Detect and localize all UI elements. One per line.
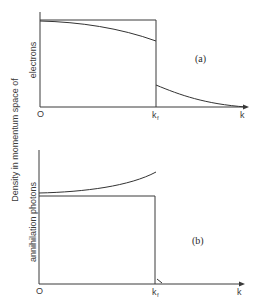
panel-a-step-function xyxy=(40,20,156,107)
figure: Density in momentum space of electrons O… xyxy=(0,0,258,306)
panel-a-density-curve xyxy=(40,21,156,41)
svg-text:f: f xyxy=(157,292,159,298)
panel-b-tail xyxy=(157,279,162,283)
panel-b-step-function xyxy=(39,196,155,284)
panel-a-origin-label: O xyxy=(37,109,44,119)
panel-b-density-curve xyxy=(39,172,156,193)
panel-b-y-label: annihilation photons xyxy=(28,181,38,262)
shared-y-label: Density in momentum space of xyxy=(10,78,20,202)
panel-a-y-label: electrons xyxy=(28,41,38,78)
panel-a-tag: (a) xyxy=(195,53,206,65)
panel-b-kf-label: k f xyxy=(152,287,159,298)
panel-a-kf-label: k f xyxy=(152,110,159,121)
panel-a-tail-curve xyxy=(156,85,246,107)
panel-b-origin-label: O xyxy=(36,286,43,296)
panel-b: annihilation photons O k f k (b) xyxy=(28,150,245,298)
svg-text:f: f xyxy=(157,115,159,121)
panel-a: electrons O k f k (a) xyxy=(28,12,249,121)
panel-a-k-label: k xyxy=(240,110,245,120)
panel-b-x-arrow-icon xyxy=(239,282,245,287)
panel-b-k-label: k xyxy=(237,287,242,297)
panel-b-tag: (b) xyxy=(192,235,204,247)
